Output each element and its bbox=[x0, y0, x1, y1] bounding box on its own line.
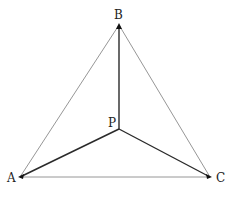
label-a: A bbox=[6, 171, 16, 185]
triangle-diagram: A B C P bbox=[0, 0, 231, 202]
segment-pa bbox=[20, 129, 119, 177]
vertex-b-mark bbox=[116, 23, 122, 29]
label-p: P bbox=[108, 116, 116, 130]
edge-ab bbox=[20, 25, 119, 177]
label-b: B bbox=[114, 8, 123, 22]
diagram-svg: A B C P bbox=[0, 0, 231, 202]
segment-pc bbox=[119, 129, 210, 177]
label-c: C bbox=[216, 171, 225, 185]
edge-bc bbox=[119, 25, 210, 177]
